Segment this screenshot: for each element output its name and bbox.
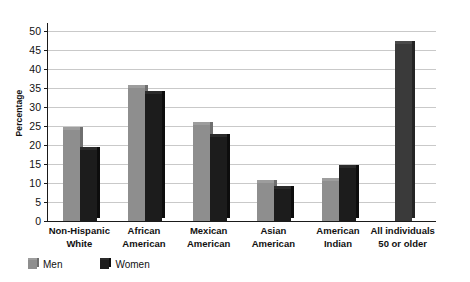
y-tick-label: 40 bbox=[29, 63, 41, 75]
y-tick-label: 35 bbox=[29, 82, 41, 94]
x-axis-label-line: All individuals bbox=[364, 225, 441, 238]
bar-men-3 bbox=[257, 183, 274, 221]
x-axis-labels: Non-HispanicWhiteAfricanAmericanMexicanA… bbox=[47, 225, 435, 259]
y-tick-label: 20 bbox=[29, 139, 41, 151]
y-tick-label: 25 bbox=[29, 120, 41, 132]
x-axis-label-line: 50 or older bbox=[364, 238, 441, 251]
bar-group bbox=[48, 23, 113, 221]
bar-group bbox=[113, 23, 178, 221]
women-swatch-icon bbox=[100, 260, 109, 269]
bar-men-1 bbox=[128, 88, 145, 221]
bar-women-1 bbox=[145, 94, 162, 221]
y-axis-title: Percentage bbox=[14, 8, 24, 78]
y-tick-label: 10 bbox=[29, 177, 41, 189]
legend-label-women: Women bbox=[115, 259, 149, 270]
x-axis-label: All individuals50 or older bbox=[364, 225, 441, 250]
y-tick-label: 45 bbox=[29, 44, 41, 56]
y-axis-title-text: Percentage bbox=[14, 78, 24, 148]
legend-item-men: Men bbox=[28, 259, 62, 270]
bar-group bbox=[307, 23, 372, 221]
chart-legend: Men Women bbox=[28, 259, 150, 270]
y-tick-label: 15 bbox=[29, 158, 41, 170]
y-tick-mark bbox=[44, 221, 48, 222]
bar-men-0 bbox=[63, 130, 80, 221]
y-tick-label: 50 bbox=[29, 25, 41, 37]
bar-women-5 bbox=[395, 44, 412, 221]
y-tick-label: 30 bbox=[29, 101, 41, 113]
bar-group bbox=[177, 23, 242, 221]
bar-women-2 bbox=[210, 137, 227, 221]
bar-group bbox=[371, 23, 436, 221]
legend-item-women: Women bbox=[100, 259, 149, 270]
bar-women-4 bbox=[339, 168, 356, 221]
plot-area: 05101520253035404550 bbox=[47, 23, 436, 222]
bar-women-3 bbox=[274, 189, 291, 221]
bars-layer bbox=[48, 23, 436, 221]
men-swatch-icon bbox=[28, 260, 37, 269]
legend-label-men: Men bbox=[43, 259, 62, 270]
bar-women-0 bbox=[80, 150, 97, 221]
bar-men-4 bbox=[322, 181, 339, 221]
bar-group bbox=[242, 23, 307, 221]
bar-chart-figure: Percentage 05101520253035404550 Non-Hisp… bbox=[0, 0, 470, 282]
bar-men-2 bbox=[193, 125, 210, 221]
y-tick-label: 5 bbox=[35, 196, 41, 208]
